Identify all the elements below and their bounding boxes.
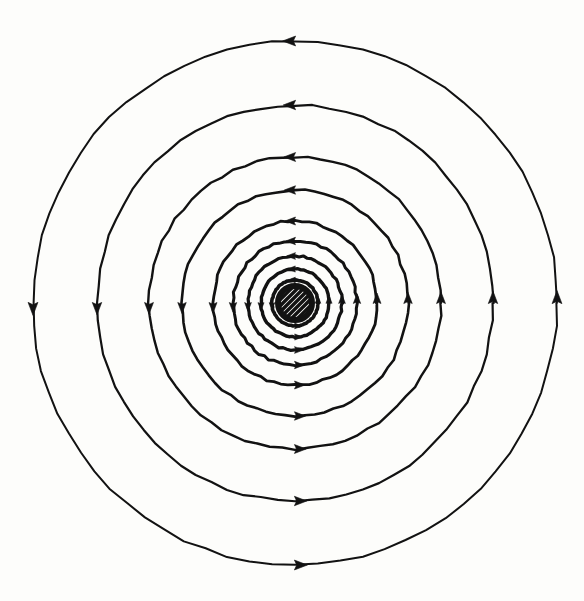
magnetic-field-diagram [0,0,584,601]
figure-canvas [0,0,584,601]
